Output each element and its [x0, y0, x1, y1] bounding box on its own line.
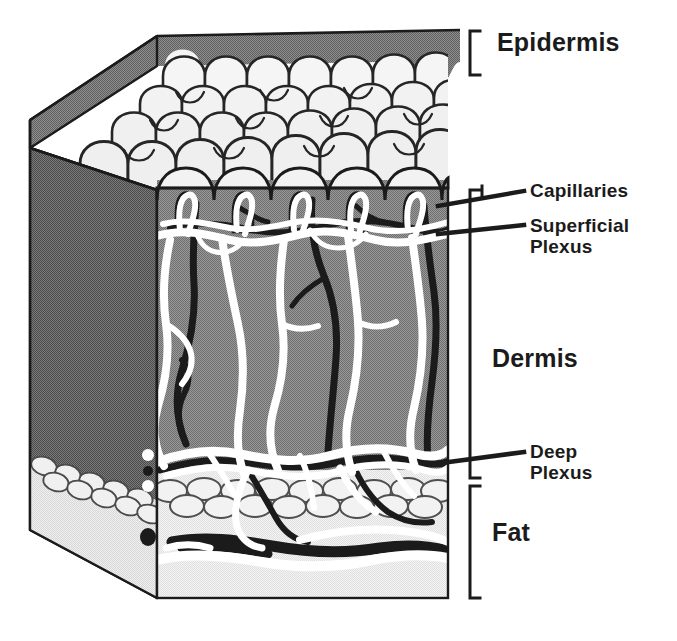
- skin-cross-section-figure: [0, 0, 677, 641]
- front-face: [153, 168, 455, 598]
- brackets: [470, 31, 480, 598]
- label-deep-line1: Deep: [530, 441, 577, 462]
- fat-cell-band: [153, 478, 455, 518]
- leader-superficial-plexus: [438, 225, 524, 234]
- bracket-epidermis: [470, 31, 480, 75]
- label-fat: Fat: [492, 518, 530, 546]
- label-superficial-line1: Superficial: [530, 215, 629, 236]
- label-superficial-plexus: SuperficialPlexus: [530, 215, 629, 258]
- label-epidermis: Epidermis: [497, 28, 620, 56]
- label-capillaries: Capillaries: [530, 180, 628, 201]
- label-deep-plexus: DeepPlexus: [530, 441, 592, 484]
- label-deep-line2: Plexus: [530, 462, 592, 483]
- label-superficial-line2: Plexus: [530, 236, 592, 257]
- label-dermis: Dermis: [492, 344, 578, 372]
- diagram-canvas: Epidermis Dermis Fat Capillaries Superfi…: [0, 0, 677, 641]
- bracket-dermis: [470, 190, 480, 478]
- left-side-face: [29, 148, 165, 600]
- bracket-fat: [470, 486, 480, 598]
